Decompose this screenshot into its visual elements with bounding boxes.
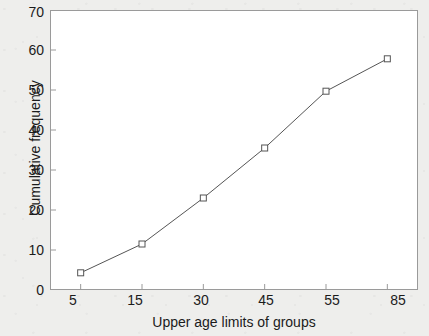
- y-axis-tick-label: 0: [4, 283, 50, 297]
- chart-figure: 0 10 20 30 40 50 60 70 5 15 30 45 55 85 …: [0, 0, 429, 336]
- y-axis-tick-label: 70: [4, 5, 50, 19]
- x-axis-tick-label: 30: [193, 293, 209, 307]
- data-point-marker: [262, 145, 268, 151]
- x-axis-tick-label: 5: [69, 293, 77, 307]
- cumulative-frequency-line: [81, 59, 388, 273]
- x-axis-tick-label-group: 5 15 30 45 55 85: [50, 293, 418, 315]
- x-axis-title: Upper age limits of groups: [50, 314, 418, 330]
- data-point-marker: [78, 270, 84, 276]
- y-axis-tick-marks: [50, 10, 56, 290]
- x-axis-tick-label: 85: [390, 293, 406, 307]
- data-point-marker: [384, 56, 390, 62]
- y-axis-title: Cumulative frequency: [27, 28, 43, 268]
- data-point-marker: [200, 195, 206, 201]
- data-point-marker: [139, 241, 145, 247]
- chart-plot-canvas: [50, 10, 418, 290]
- x-axis-tick-label: 55: [324, 293, 340, 307]
- x-axis-tick-label: 15: [127, 293, 143, 307]
- cumulative-frequency-markers: [78, 56, 391, 276]
- x-axis-tick-marks: [81, 284, 388, 290]
- data-point-marker: [323, 88, 329, 94]
- x-axis-tick-label: 45: [258, 293, 274, 307]
